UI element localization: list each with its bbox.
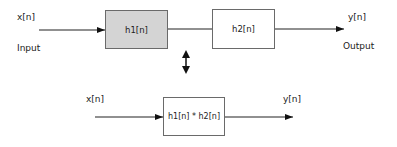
bidirectional-arrow-icon — [182, 50, 190, 74]
output-signal-label: y[n] — [348, 12, 366, 23]
output-caption: Output — [343, 41, 374, 52]
block-convolution-label: h1[n] * h2[n] — [168, 112, 220, 121]
input-signal-label: x[n] — [17, 12, 35, 23]
bottom-output-signal-label: y[n] — [283, 94, 301, 105]
bottom-input-signal-label: x[n] — [86, 94, 104, 105]
block-h1: h1[n] — [105, 10, 168, 49]
block-convolution: h1[n] * h2[n] — [163, 97, 225, 136]
block-h1-label: h1[n] — [125, 25, 148, 35]
input-caption: Input — [17, 43, 40, 54]
block-h2: h2[n] — [212, 9, 275, 49]
block-h2-label: h2[n] — [232, 24, 255, 34]
